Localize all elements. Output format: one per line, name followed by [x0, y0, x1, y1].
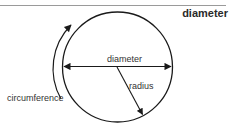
diameter-label: diameter [107, 54, 142, 64]
radius-label: radius [129, 81, 154, 91]
circle-diagram: diameter radius circumference [0, 0, 232, 130]
circumference-arrow [53, 25, 71, 99]
circumference-label: circumference [7, 93, 64, 103]
